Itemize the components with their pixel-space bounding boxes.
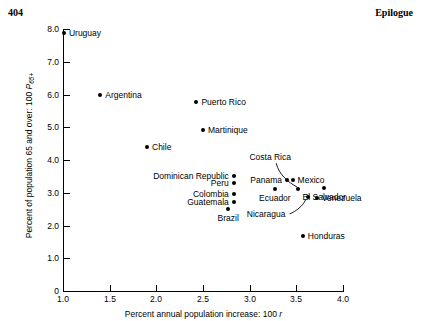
y-axis-title-subscript: 65+: [28, 73, 35, 84]
scatter-figure: 01.02.03.04.05.06.07.08.0 1.01.52.02.53.…: [0, 18, 421, 321]
leader-line: [290, 200, 306, 214]
x-axis-title-text: Percent annual population increase: 100: [125, 309, 280, 319]
point-label: Costa Rica: [249, 153, 291, 162]
data-point: [145, 145, 149, 149]
point-label: Uruguay: [69, 28, 101, 37]
point-label: Peru: [211, 179, 229, 188]
point-label: Honduras: [308, 231, 345, 240]
x-axis-title-symbol: r: [279, 309, 282, 319]
point-label: Puerto Rico: [201, 98, 245, 107]
point-label: Ecuador: [259, 194, 291, 203]
point-label: Brazil: [218, 214, 239, 223]
data-point: [98, 93, 102, 97]
data-point: [226, 207, 230, 211]
data-point: [232, 174, 236, 178]
point-label: El Salvador: [303, 193, 346, 202]
data-point: [285, 178, 289, 182]
y-axis-title: Percent of population 65 and over: 100 P…: [24, 21, 35, 291]
point-label: Panama: [250, 175, 282, 184]
y-axis-title-symbol: P: [24, 84, 34, 90]
y-axis-title-text: Percent of population 65 and over: 100: [24, 89, 34, 238]
figure-page: 404 Epilogue 01.02.03.04.05.06.07.08.0 1…: [0, 0, 421, 321]
data-point: [62, 31, 66, 35]
point-label: Nicaragua: [247, 210, 286, 219]
data-point: [273, 187, 277, 191]
point-label: Argentina: [105, 90, 141, 99]
data-point: [201, 128, 205, 132]
data-point: [232, 192, 236, 196]
point-label: Mexico: [298, 175, 325, 184]
data-point: [291, 178, 295, 182]
point-label: Martinique: [208, 125, 248, 134]
plot-area: 01.02.03.04.05.06.07.08.0 1.01.52.02.53.…: [0, 18, 421, 321]
point-label: Chile: [152, 142, 171, 151]
data-point: [232, 200, 236, 204]
data-point: [301, 234, 305, 238]
point-label: Guatemala: [187, 197, 229, 206]
x-axis-title: Percent annual population increase: 100 …: [63, 309, 344, 319]
